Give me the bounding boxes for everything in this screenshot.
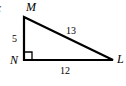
vertex-label-l: L — [117, 53, 124, 65]
triangle-outline — [24, 17, 113, 60]
geometry-figure: : M N L 13 5 12 — [0, 0, 126, 86]
right-angle-marker-icon — [24, 52, 32, 60]
side-length-hypotenuse: 13 — [66, 26, 76, 36]
side-length-vertical-leg: 5 — [12, 34, 17, 44]
vertex-label-n: N — [10, 54, 18, 66]
vertex-label-m: M — [26, 1, 36, 13]
side-length-horizontal-leg: 12 — [60, 66, 70, 76]
